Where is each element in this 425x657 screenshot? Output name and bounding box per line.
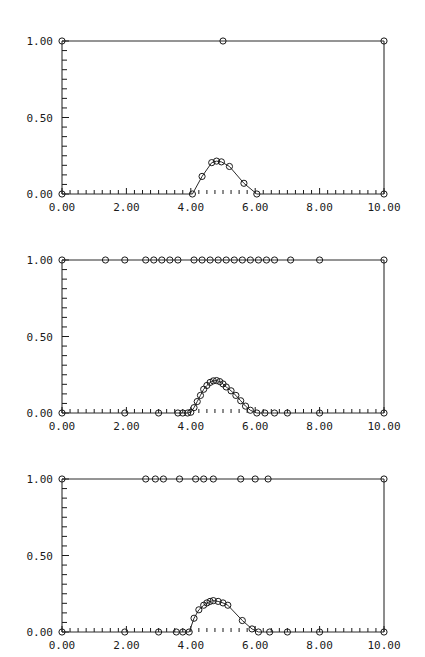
x-tick-label: 6.00	[242, 201, 269, 214]
chart-panel-2: 0.000.501.000.002.004.006.008.0010.00	[0, 219, 425, 438]
x-tick-label: 8.00	[306, 420, 333, 433]
tick-labels: 0.000.501.000.002.004.006.008.0010.00	[27, 35, 401, 214]
y-tick-label: 0.50	[27, 331, 54, 344]
series-upper	[59, 476, 387, 482]
figure-root: 0.000.501.000.002.004.006.008.0010.00 0.…	[0, 0, 425, 657]
x-axis-ticks	[62, 626, 384, 632]
x-tick-label: 10.00	[367, 201, 400, 214]
x-tick-label: 8.00	[306, 201, 333, 214]
x-tick-label: 4.00	[178, 420, 205, 433]
tick-labels: 0.000.501.000.002.004.006.008.0010.00	[27, 254, 401, 433]
y-tick-label: 0.50	[27, 550, 54, 563]
x-tick-label: 10.00	[367, 420, 400, 433]
x-tick-label: 0.00	[49, 420, 76, 433]
y-tick-label: 0.50	[27, 112, 54, 125]
x-axis-ticks	[62, 407, 384, 413]
y-tick-label: 0.00	[27, 626, 54, 639]
y-tick-label: 1.00	[27, 254, 54, 267]
x-tick-label: 10.00	[367, 639, 400, 652]
tick-labels: 0.000.501.000.002.004.006.008.0010.00	[27, 473, 401, 652]
y-tick-label: 1.00	[27, 35, 54, 48]
x-axis-ticks	[62, 188, 384, 194]
x-tick-label: 6.00	[242, 639, 269, 652]
series-upper	[59, 38, 387, 44]
chart-panel-1: 0.000.501.000.002.004.006.008.0010.00	[0, 0, 425, 219]
series-upper	[59, 257, 387, 263]
y-axis-ticks	[62, 260, 69, 413]
y-tick-label: 0.00	[27, 188, 54, 201]
y-axis-ticks	[62, 479, 69, 632]
x-tick-label: 4.00	[178, 639, 205, 652]
x-tick-label: 0.00	[49, 201, 76, 214]
axis-frame	[62, 41, 384, 194]
x-tick-label: 2.00	[113, 420, 140, 433]
x-tick-label: 0.00	[49, 639, 76, 652]
axis-frame	[62, 479, 384, 632]
x-tick-label: 2.00	[113, 201, 140, 214]
series-line-lower	[62, 601, 384, 632]
chart-panel-3: 0.000.501.000.002.004.006.008.0010.00	[0, 438, 425, 657]
x-tick-label: 2.00	[113, 639, 140, 652]
axis-frame	[62, 260, 384, 413]
x-tick-label: 6.00	[242, 420, 269, 433]
plot-area-3: 0.000.501.000.002.004.006.008.0010.00	[0, 438, 425, 657]
y-axis-ticks	[62, 41, 69, 194]
plot-area-1: 0.000.501.000.002.004.006.008.0010.00	[0, 0, 425, 219]
series-line-lower	[62, 161, 384, 194]
y-tick-label: 1.00	[27, 473, 54, 486]
x-tick-label: 4.00	[178, 201, 205, 214]
plot-area-2: 0.000.501.000.002.004.006.008.0010.00	[0, 219, 425, 438]
y-tick-label: 0.00	[27, 407, 54, 420]
x-tick-label: 8.00	[306, 639, 333, 652]
